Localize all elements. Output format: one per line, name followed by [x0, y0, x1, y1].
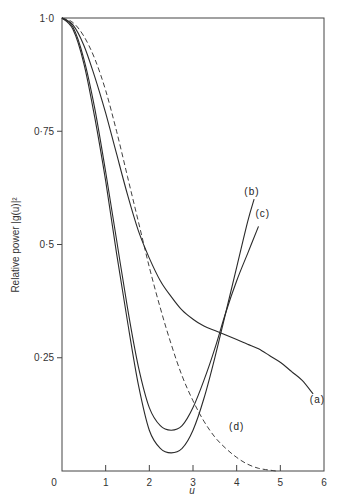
series-line-a: [62, 18, 313, 394]
line-chart: 01234560·250·50·751·0 (a)(b)(c)(d) u Rel…: [0, 0, 341, 502]
y-axis-label: Relative power |g(u)|²: [10, 197, 21, 293]
x-tick-label: 5: [278, 477, 284, 488]
curve-labels: (a)(b)(c)(d): [229, 186, 325, 433]
curve-label-a: (a): [310, 394, 325, 405]
y-tick-label: 0·5: [40, 239, 55, 250]
y-tick-label: 0·25: [34, 352, 54, 363]
x-tick-label: 2: [147, 477, 153, 488]
series-line-c: [62, 18, 259, 430]
curve-label-c: (c): [256, 208, 271, 219]
curve-label-d: (d): [229, 421, 244, 432]
y-tick-label: 0·75: [34, 126, 54, 137]
x-tick-label: 1: [103, 477, 109, 488]
series-line-d: [62, 18, 276, 471]
x-tick-label: 0: [51, 477, 57, 488]
plot-frame: [62, 18, 324, 471]
x-tick-label: 6: [321, 477, 327, 488]
series-group: [62, 18, 313, 471]
series-line-b: [62, 18, 254, 453]
curve-label-b: (b): [244, 186, 259, 197]
x-axis-label: u: [189, 485, 195, 496]
x-tick-label: 4: [234, 477, 240, 488]
axes: 01234560·250·50·751·0: [34, 13, 327, 489]
y-tick-label: 1·0: [40, 13, 55, 24]
